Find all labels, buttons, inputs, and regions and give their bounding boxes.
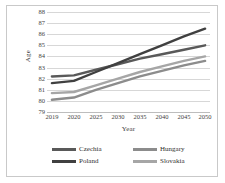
y-tick-label: 81 [39, 87, 46, 94]
y-tick-label: 83 [39, 64, 46, 71]
x-tick-label: 2050 [199, 113, 212, 120]
x-tick-label: 2045 [177, 113, 190, 120]
chart-legend: Czechia Hungary Poland Slovakia [30, 146, 200, 172]
y-tick-label: 79 [39, 109, 46, 116]
legend-label: Hungary [160, 146, 185, 153]
grid-and-series [47, 12, 210, 112]
legend-swatch-icon [133, 160, 157, 163]
x-axis-tick-labels: 2019 2020 2025 2030 2035 2040 2045 2050 [47, 113, 210, 125]
legend-swatch-icon [133, 148, 157, 151]
x-tick-label: 2035 [133, 113, 146, 120]
legend-label: Poland [79, 158, 98, 165]
legend-label: Czechia [79, 146, 102, 153]
legend-swatch-icon [52, 148, 76, 151]
y-tick-label: 88 [39, 9, 46, 16]
x-tick-label: 2020 [67, 113, 80, 120]
legend-item-poland[interactable]: Poland [52, 158, 98, 165]
y-tick-label: 80 [39, 98, 46, 105]
x-tick-label: 2030 [111, 113, 124, 120]
legend-item-hungary[interactable]: Hungary [133, 146, 185, 153]
x-tick-label: 2019 [45, 113, 58, 120]
legend-swatch-icon [52, 160, 76, 163]
legend-item-slovakia[interactable]: Slovakia [133, 158, 185, 165]
chart-figure: Age 88 87 86 85 84 83 82 81 80 79 [0, 0, 225, 183]
x-axis-title: Year [47, 125, 210, 133]
y-tick-label: 82 [39, 75, 46, 82]
y-tick-label: 85 [39, 42, 46, 49]
y-tick-label: 86 [39, 31, 46, 38]
series-lines [47, 12, 210, 112]
y-tick-label: 84 [39, 53, 46, 60]
legend-label: Slovakia [160, 158, 185, 165]
x-tick-label: 2040 [155, 113, 168, 120]
plot-area: Age 88 87 86 85 84 83 82 81 80 79 [14, 12, 210, 124]
x-tick-label: 2025 [89, 113, 102, 120]
legend-item-czechia[interactable]: Czechia [52, 146, 102, 153]
y-axis-tick-labels: 88 87 86 85 84 83 82 81 80 79 [28, 12, 45, 112]
y-tick-label: 87 [39, 20, 46, 27]
